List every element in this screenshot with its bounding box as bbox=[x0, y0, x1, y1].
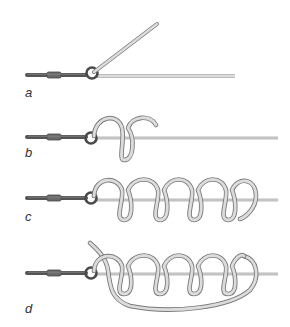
step-label-a: a bbox=[25, 86, 32, 99]
step-label-b: b bbox=[25, 146, 32, 159]
knot-illustration bbox=[0, 0, 290, 327]
step-b-illustration bbox=[27, 118, 278, 160]
step-c-illustration bbox=[27, 180, 278, 221]
step-label-d: d bbox=[25, 302, 32, 315]
step-d-illustration bbox=[27, 243, 278, 309]
step-label-c: c bbox=[25, 210, 32, 223]
step-a-illustration bbox=[27, 24, 235, 79]
knot-diagram: a b c d bbox=[0, 0, 290, 327]
